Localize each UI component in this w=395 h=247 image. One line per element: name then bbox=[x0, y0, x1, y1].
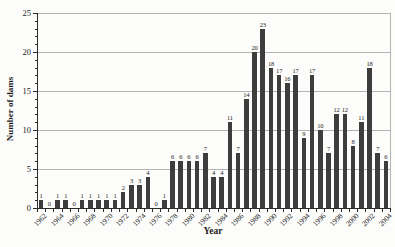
bar-1972 bbox=[121, 192, 126, 208]
bar-1991 bbox=[277, 75, 282, 208]
y-minor-tick-8 bbox=[35, 146, 37, 147]
x-tick-34 bbox=[316, 209, 317, 212]
bar-1993 bbox=[293, 75, 298, 208]
x-tick-label-1994: 1994 bbox=[295, 212, 311, 228]
x-tick-label-1998: 1998 bbox=[328, 212, 344, 228]
x-tick-30 bbox=[283, 209, 284, 212]
x-tick-6 bbox=[86, 209, 87, 212]
x-tick-43 bbox=[390, 209, 391, 212]
x-tick-14 bbox=[152, 209, 153, 212]
x-tick-36 bbox=[333, 209, 334, 212]
y-minor-tick-17 bbox=[35, 75, 37, 76]
x-tick-9 bbox=[111, 209, 112, 212]
x-tick-17 bbox=[177, 209, 178, 212]
x-tick-21 bbox=[209, 209, 210, 212]
x-tick-label-1964: 1964 bbox=[49, 212, 65, 228]
x-axis-title: Year bbox=[138, 226, 288, 236]
x-tick-33 bbox=[308, 209, 309, 212]
bar-1967 bbox=[80, 200, 85, 208]
y-tick-label-0: 0 bbox=[13, 204, 31, 213]
plot-area: 0510152025101101111123340166667441171420… bbox=[0, 0, 395, 247]
x-tick-13 bbox=[144, 209, 145, 212]
bar-1998 bbox=[334, 114, 339, 208]
y-minor-tick-12 bbox=[35, 114, 37, 115]
bar-1970 bbox=[104, 200, 109, 208]
y-axis-line bbox=[37, 13, 38, 209]
x-tick-1 bbox=[45, 209, 46, 212]
bar-1999 bbox=[343, 114, 348, 208]
y-minor-tick-14 bbox=[35, 99, 37, 100]
bar-value-label-2004: 6 bbox=[376, 153, 395, 160]
x-tick-3 bbox=[62, 209, 63, 212]
dams-per-year-bar-chart: 0510152025101101111123340166667441171420… bbox=[0, 0, 395, 247]
bar-1980 bbox=[187, 161, 192, 208]
gridline-20 bbox=[37, 52, 390, 53]
bar-1988 bbox=[252, 52, 257, 208]
x-tick-22 bbox=[218, 209, 219, 212]
x-tick-37 bbox=[341, 209, 342, 212]
x-tick-10 bbox=[119, 209, 120, 212]
y-tick-label-10: 10 bbox=[13, 126, 31, 135]
x-tick-18 bbox=[185, 209, 186, 212]
x-tick-40 bbox=[365, 209, 366, 212]
bar-value-label-2003: 7 bbox=[368, 145, 388, 152]
gridline-15 bbox=[37, 91, 390, 92]
y-major-tick-10 bbox=[33, 130, 37, 131]
bar-1981 bbox=[195, 161, 200, 208]
x-tick-31 bbox=[291, 209, 292, 212]
bar-value-label-1990: 18 bbox=[261, 60, 281, 67]
bar-2004 bbox=[384, 161, 389, 208]
y-minor-tick-13 bbox=[35, 107, 37, 108]
bar-1983 bbox=[211, 177, 216, 208]
bar-1995 bbox=[310, 75, 315, 208]
x-tick-4 bbox=[70, 209, 71, 212]
y-tick-label-5: 5 bbox=[13, 165, 31, 174]
bar-value-label-1996: 10 bbox=[310, 122, 330, 129]
x-tick-29 bbox=[275, 209, 276, 212]
x-tick-label-1966: 1966 bbox=[65, 212, 81, 228]
x-tick-label-2000: 2000 bbox=[344, 212, 360, 228]
x-tick-20 bbox=[201, 209, 202, 212]
x-tick-25 bbox=[242, 209, 243, 212]
bar-1984 bbox=[219, 177, 224, 208]
x-tick-39 bbox=[357, 209, 358, 212]
x-tick-19 bbox=[193, 209, 194, 212]
y-minor-tick-3 bbox=[35, 185, 37, 186]
bar-2002 bbox=[367, 68, 372, 208]
bar-1996 bbox=[318, 130, 323, 208]
x-tick-label-2004: 2004 bbox=[377, 212, 393, 228]
bar-value-label-1999: 12 bbox=[335, 106, 355, 113]
bar-1973 bbox=[129, 185, 134, 208]
plot-right-border bbox=[390, 13, 391, 208]
x-tick-5 bbox=[78, 209, 79, 212]
y-minor-tick-16 bbox=[35, 83, 37, 84]
bar-1990 bbox=[269, 68, 274, 208]
x-tick-label-1970: 1970 bbox=[98, 212, 114, 228]
x-tick-0 bbox=[37, 209, 38, 212]
x-tick-label-1968: 1968 bbox=[82, 212, 98, 228]
bar-1974 bbox=[137, 185, 142, 208]
x-tick-27 bbox=[259, 209, 260, 212]
y-minor-tick-24 bbox=[35, 21, 37, 22]
bar-value-label-1989: 23 bbox=[253, 21, 273, 28]
bar-1969 bbox=[96, 200, 101, 208]
bar-1992 bbox=[285, 83, 290, 208]
y-axis-title: Number of dams bbox=[5, 73, 15, 145]
x-tick-32 bbox=[300, 209, 301, 212]
x-tick-15 bbox=[160, 209, 161, 212]
x-tick-41 bbox=[374, 209, 375, 212]
bar-1964 bbox=[55, 200, 60, 208]
bar-1977 bbox=[162, 200, 167, 208]
bar-value-label-1982: 7 bbox=[195, 145, 215, 152]
x-tick-12 bbox=[136, 209, 137, 212]
y-minor-tick-6 bbox=[35, 161, 37, 162]
x-tick-11 bbox=[127, 209, 128, 212]
bar-value-label-1975: 4 bbox=[138, 169, 158, 176]
y-major-tick-5 bbox=[33, 169, 37, 170]
x-tick-23 bbox=[226, 209, 227, 212]
y-major-tick-20 bbox=[33, 52, 37, 53]
bar-value-label-2002: 18 bbox=[359, 60, 379, 67]
bar-1986 bbox=[236, 153, 241, 208]
bar-2003 bbox=[375, 153, 380, 208]
bar-1985 bbox=[228, 122, 233, 208]
